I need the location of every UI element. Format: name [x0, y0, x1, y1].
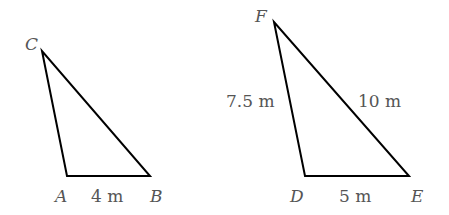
side-label-de: 5 m [339, 188, 371, 205]
side-label-df: 7.5 m [226, 93, 275, 110]
side-label-ab: 4 m [91, 188, 123, 205]
vertex-label-f: F [255, 8, 267, 25]
side-label-fe: 10 m [358, 93, 401, 110]
vertex-label-d: D [290, 188, 304, 205]
vertex-label-c: C [25, 36, 38, 53]
triangle-abc [42, 51, 150, 176]
vertex-label-e: E [411, 188, 423, 205]
vertex-label-b: B [150, 188, 163, 205]
vertex-label-a: A [55, 188, 67, 205]
